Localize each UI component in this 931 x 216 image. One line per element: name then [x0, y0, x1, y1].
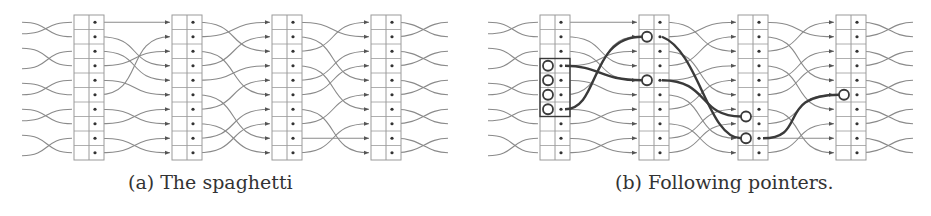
caption-b: (b) Following pointers.: [615, 171, 834, 193]
panel-b: [488, 15, 913, 160]
caption-a: (a) The spaghetti: [128, 171, 293, 193]
panel-a: [22, 15, 448, 160]
